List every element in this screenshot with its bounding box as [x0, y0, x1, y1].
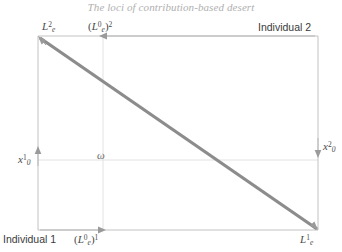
label-right-mid-x20: x20 [323, 140, 335, 154]
label-bottom-mid-L0e1: (L0e)1 [74, 233, 98, 247]
axis-label-individual-2: Individual 2 [258, 21, 311, 33]
arrow-left-edge-up [35, 146, 42, 166]
label-top-mid-L0e2: (L0e)2 [88, 20, 112, 34]
label-top-left-L2e: L2e [42, 20, 55, 34]
arrow-right-edge-down [315, 138, 322, 158]
axis-label-individual-1: Individual 1 [3, 233, 56, 245]
label-left-mid-x10: x10 [18, 153, 30, 167]
label-bottom-right-L1e: L1e [300, 233, 313, 247]
arrow-top-edge-left [99, 33, 315, 40]
figure-root: The loci of contribution-based desert [0, 0, 342, 252]
label-omega: ω [97, 149, 105, 161]
desert-locus-diagonal [40, 38, 317, 229]
arrow-top-left [38, 36, 46, 45]
figure-canvas [0, 0, 342, 252]
